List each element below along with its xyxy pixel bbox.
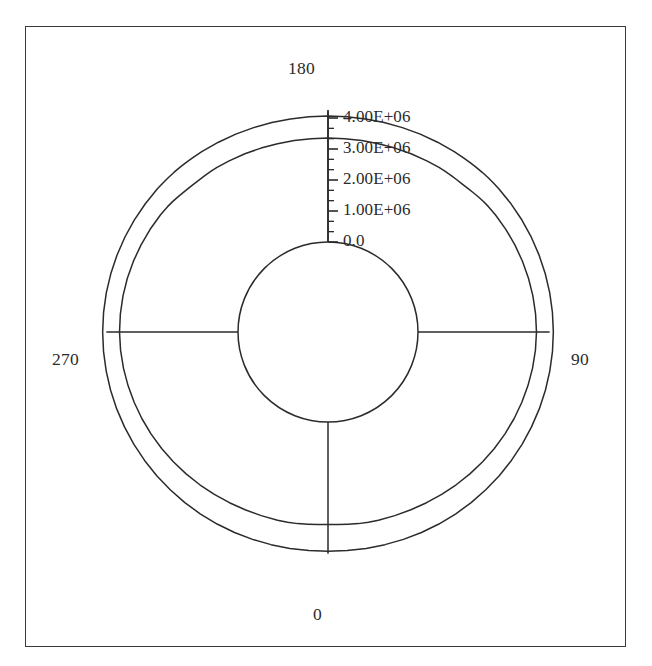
plot-frame-border bbox=[25, 26, 626, 647]
radial-tick-label-2: 2.00E+06 bbox=[343, 169, 411, 189]
figure-canvas: 180 90 270 0 0.01.00E+062.00E+063.00E+06… bbox=[0, 0, 652, 666]
radial-tick-label-3: 3.00E+06 bbox=[343, 138, 411, 158]
angle-label-180: 180 bbox=[288, 58, 315, 79]
angle-label-0: 0 bbox=[313, 604, 322, 625]
angle-label-270: 270 bbox=[52, 349, 79, 370]
radial-tick-label-1: 1.00E+06 bbox=[343, 200, 411, 220]
radial-tick-label-0: 0.0 bbox=[343, 231, 365, 251]
radial-tick-label-4: 4.00E+06 bbox=[343, 107, 411, 127]
angle-label-90: 90 bbox=[571, 349, 589, 370]
